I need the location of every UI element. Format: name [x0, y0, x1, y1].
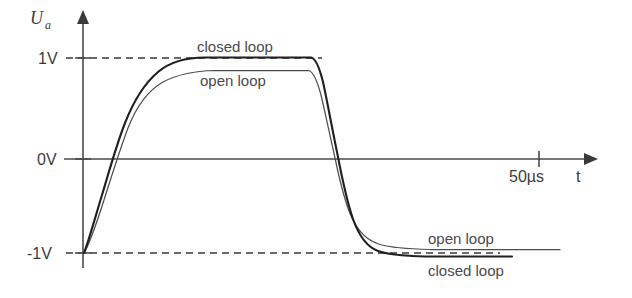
y-tick-label-1v: 1V — [38, 50, 58, 67]
y-tick-label-minus1v: -1V — [27, 245, 52, 262]
x-axis-arrow-icon — [584, 153, 598, 165]
x-tick-label-50us: 50µs — [509, 168, 544, 185]
y-tick-label-0v: 0V — [37, 151, 57, 168]
annotation-open-loop-bottom: open loop — [428, 230, 494, 247]
waveform-chart: U a 1V 0V -1V 50µs t closed loop open lo… — [0, 0, 632, 298]
y-axis-arrow-icon — [77, 10, 89, 24]
curve-open-loop — [84, 71, 560, 254]
y-axis-title: U — [30, 8, 44, 28]
annotation-closed-loop-top: closed loop — [197, 38, 273, 55]
curve-closed-loop — [84, 58, 512, 257]
annotation-closed-loop-bottom: closed loop — [428, 262, 504, 279]
chart-svg: U a 1V 0V -1V 50µs t closed loop open lo… — [0, 0, 632, 298]
y-axis-title-subscript: a — [45, 18, 51, 32]
annotation-open-loop-top: open loop — [200, 72, 266, 89]
x-axis-title: t — [576, 168, 581, 185]
